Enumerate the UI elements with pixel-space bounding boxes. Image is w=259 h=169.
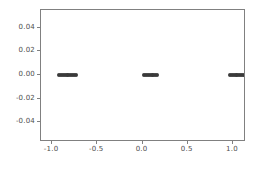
x-tick-label: 1.0 (226, 145, 238, 153)
y-tick-label: -0.02 (16, 94, 35, 102)
x-tick-mark (232, 141, 233, 144)
x-tick-mark (142, 141, 143, 144)
y-tick-label: 0.02 (19, 46, 35, 54)
y-tick-mark (37, 121, 40, 122)
x-tick-mark (187, 141, 188, 144)
scatter-point (241, 73, 244, 77)
x-tick-label: -0.5 (89, 145, 103, 153)
x-tick-label: 0.5 (181, 145, 193, 153)
y-tick-mark (37, 50, 40, 51)
y-tick-mark (37, 27, 40, 28)
matplotlib-figure: -1.0-0.50.00.51.0 -0.04-0.020.000.020.04 (0, 0, 259, 169)
scatter-point (74, 73, 78, 77)
y-tick-label: 0.00 (19, 70, 35, 78)
x-tick-label: 0.0 (136, 145, 148, 153)
y-tick-mark (37, 74, 40, 75)
x-tick-label: -1.0 (44, 145, 58, 153)
plot-axes (40, 9, 245, 141)
plot-data-area (41, 10, 244, 140)
y-tick-label: 0.04 (19, 23, 35, 31)
y-tick-mark (37, 98, 40, 99)
y-tick-label: -0.04 (16, 117, 35, 125)
x-tick-mark (96, 141, 97, 144)
x-tick-mark (51, 141, 52, 144)
scatter-point (155, 73, 159, 77)
